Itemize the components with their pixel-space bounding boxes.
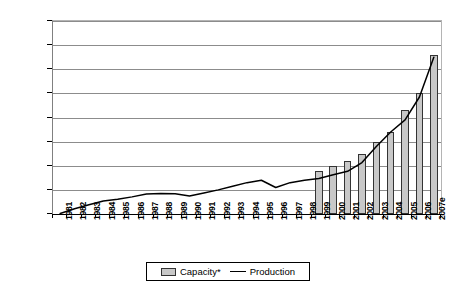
plot-area: [52, 20, 442, 215]
x-tick-label: 1981: [64, 202, 74, 220]
x-tick-label: 1987: [150, 202, 160, 220]
y-tick-mark: [47, 68, 52, 69]
x-tick-label: 1991: [207, 202, 217, 220]
x-tick-label: 1984: [107, 202, 117, 220]
y-tick-mark: [47, 189, 52, 190]
x-tick-label: 1996: [279, 202, 289, 220]
y-tick-mark: [47, 165, 52, 166]
x-tick-label: 2001: [351, 202, 361, 220]
x-tick-label: 1998: [308, 202, 318, 220]
x-tick-label: 1993: [236, 202, 246, 220]
legend-label-capacity: Capacity*: [180, 266, 221, 277]
y-tick-mark: [47, 141, 52, 142]
x-tick-label: 1982: [78, 202, 88, 220]
x-tick-label: 2005: [409, 202, 419, 220]
x-tick-label: 2000: [337, 202, 347, 220]
legend-item-capacity: Capacity*: [161, 266, 221, 277]
bar-swatch-icon: [161, 268, 176, 276]
x-tick-label: 2003: [380, 202, 390, 220]
x-tick-label: 1997: [294, 202, 304, 220]
y-tick-mark: [47, 92, 52, 93]
x-tick-label: 1986: [136, 202, 146, 220]
y-tick-mark: [47, 44, 52, 45]
x-tick-label: 2002: [365, 202, 375, 220]
x-tick-label: 1988: [164, 202, 174, 220]
x-tick-label: 1992: [222, 202, 232, 220]
ethanol-capacity-production-chart: Billions of gallons per year 0.01.02.03.…: [0, 0, 452, 289]
x-tick-label: 2004: [394, 202, 404, 220]
legend-item-production: Production: [230, 266, 295, 277]
y-tick-mark: [47, 20, 52, 21]
legend-label-production: Production: [250, 266, 295, 277]
production-line-series: [53, 21, 441, 214]
x-tick-label: 2006: [423, 202, 433, 220]
x-tick-label: 1985: [121, 202, 131, 220]
y-tick-mark: [47, 117, 52, 118]
x-tick-label: 1994: [251, 202, 261, 220]
chart-legend: Capacity* Production: [146, 262, 310, 281]
production-line: [60, 57, 434, 213]
x-tick-label: 1999: [322, 202, 332, 220]
x-tick-label: 2007e: [437, 197, 447, 220]
line-swatch-icon: [230, 271, 246, 272]
x-tick-label: 1983: [92, 202, 102, 220]
x-tick-label: 1989: [179, 202, 189, 220]
x-tick-mark: [52, 214, 53, 218]
x-tick-label: 1995: [265, 202, 275, 220]
x-tick-label: 1990: [193, 202, 203, 220]
